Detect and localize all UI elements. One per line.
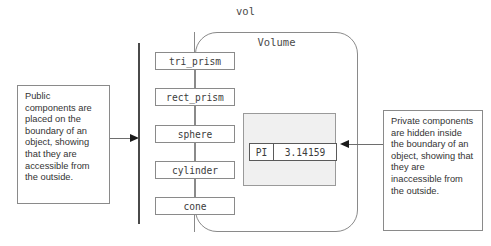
public-component-cone[interactable]: cone <box>155 197 235 215</box>
public-component-cylinder[interactable]: cylinder <box>155 161 235 179</box>
annotation-public-components: Public components are placed on the boun… <box>17 85 110 204</box>
connector-segment <box>194 32 195 52</box>
arrow-private-shaft <box>348 144 383 145</box>
arrow-public-shaft <box>110 138 132 139</box>
public-component-sphere[interactable]: sphere <box>155 125 235 143</box>
connector-segment <box>194 215 195 232</box>
connector-segment <box>194 106 195 125</box>
private-constant-name: PI <box>250 144 274 160</box>
public-component-tri-prism[interactable]: tri_prism <box>155 52 235 70</box>
annotation-private-components: Private components are hidden inside the… <box>383 110 483 231</box>
private-constant-value: 3.14159 <box>274 144 336 160</box>
arrow-private-head-icon <box>340 140 349 148</box>
public-component-rect-prism[interactable]: rect_prism <box>155 88 235 106</box>
object-instance-label: vol <box>0 5 491 17</box>
object-boundary-bar <box>138 43 140 224</box>
connector-segment <box>194 179 195 197</box>
connector-segment <box>194 143 195 161</box>
diagram-canvas: Public components are placed on the boun… <box>0 0 491 246</box>
connector-segment <box>194 70 195 88</box>
object-type-label: Volume <box>195 36 358 48</box>
private-constant-row[interactable]: PI 3.14159 <box>249 143 337 161</box>
